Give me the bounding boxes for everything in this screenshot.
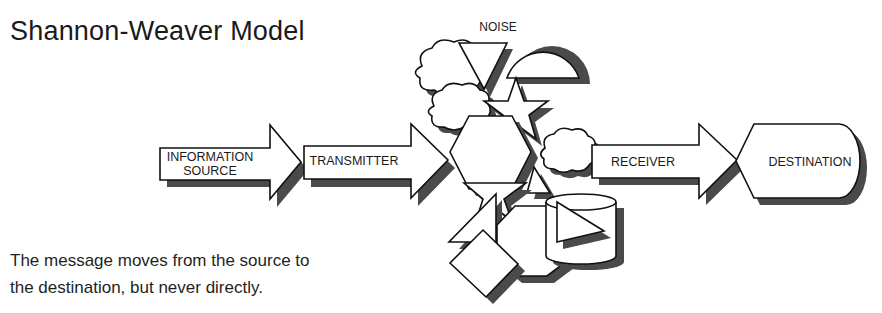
caption-line-1: The message moves from the source to [10,247,430,274]
destination-label: DESTINATION [768,155,851,169]
information-source-label-1: INFORMATION [167,150,254,164]
transmitter-arrow: TRANSMITTER [304,124,455,206]
destination-shape: DESTINATION [736,124,867,205]
receiver-label: RECEIVER [611,155,675,169]
caption-line-2: the destination, but never directly. [10,274,430,301]
information-source-arrow: INFORMATION SOURCE [160,125,308,207]
transmitter-label: TRANSMITTER [310,154,399,168]
noise-label: NOISE [479,20,516,34]
receiver-arrow: RECEIVER [592,124,745,205]
half-circle-shape [507,46,590,84]
caption: The message moves from the source to the… [10,247,430,301]
information-source-label-2: SOURCE [183,164,236,178]
